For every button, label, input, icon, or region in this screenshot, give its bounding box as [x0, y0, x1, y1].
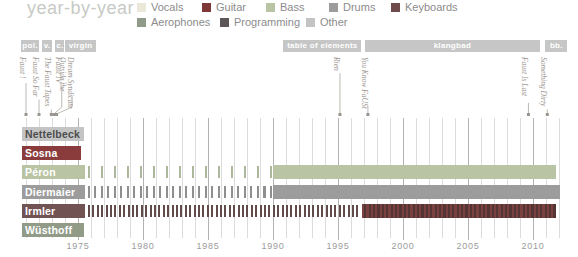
member-row-diermaier: Diermaier: [0, 185, 578, 199]
member-name: Sosna: [25, 146, 58, 160]
member-name: Péron: [25, 165, 56, 179]
segment-ticks: [88, 166, 271, 178]
album-label: Outside the Dream Syndicate: [58, 57, 74, 109]
member-row-nettelbeck: Nettelbeck: [0, 127, 578, 141]
album-label: Faust So Far: [31, 57, 39, 97]
album-label: You Know FaUSt: [360, 57, 368, 109]
segment-solid: [273, 165, 556, 179]
axis-tick-label: 1975: [63, 241, 93, 251]
album-label: Rien: [332, 57, 340, 71]
segment-ticks: [88, 205, 360, 217]
album-label: Faust Is Last: [520, 57, 528, 96]
album-dot: [338, 113, 341, 116]
axis-tick-label: 1990: [258, 241, 288, 251]
album-dot: [527, 113, 530, 116]
member-row-wsthoff: Wüsthoff: [0, 223, 578, 237]
album-label: Faust !: [18, 57, 26, 78]
axis-tick-label: 1980: [128, 241, 158, 251]
member-name: Wüsthoff: [25, 223, 72, 237]
axis-tick-label: 2000: [388, 241, 418, 251]
member-row-irmler: Irmler: [0, 204, 578, 218]
member-row-sosna: Sosna: [0, 146, 578, 160]
segment-striped: [362, 204, 556, 218]
album-dot: [38, 113, 41, 116]
axis-tick-label: 1995: [323, 241, 353, 251]
axis-tick-label: 2005: [453, 241, 483, 251]
member-name: Diermaier: [25, 185, 75, 199]
album-dot: [25, 113, 28, 116]
album-dot: [546, 113, 549, 116]
segment-solid: [273, 185, 560, 199]
album-dot: [366, 113, 369, 116]
album-label: Something Dirty: [539, 57, 547, 106]
member-row-pron: Péron: [0, 165, 578, 179]
member-name: Irmler: [25, 204, 55, 218]
year-by-year-chart: year-by-year VocalsGuitarBassDrumsKeyboa…: [0, 0, 578, 257]
axis-tick-label: 1985: [193, 241, 223, 251]
album-dot: [50, 113, 53, 116]
axis-tick-label: 2010: [518, 241, 548, 251]
segment-ticks: [88, 186, 271, 198]
member-name: Nettelbeck: [25, 127, 80, 141]
album-dot: [52, 113, 55, 116]
album-dot: [55, 113, 58, 116]
album-label: The Faust Tapes: [43, 57, 51, 106]
